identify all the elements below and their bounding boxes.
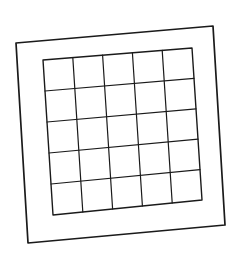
grid-lines: [45, 50, 200, 212]
grid-horizontal-line: [49, 139, 198, 153]
sketch-canvas: [0, 0, 241, 256]
grid-vertical-line: [162, 50, 172, 203]
grid-vertical-line: [73, 58, 83, 212]
grid-horizontal-line: [45, 78, 194, 91]
grid-vertical-line: [103, 55, 113, 209]
grid-vertical-line: [132, 53, 142, 206]
inner-grid-border: [43, 48, 202, 215]
grid-horizontal-line: [47, 109, 196, 122]
grid-horizontal-line: [51, 170, 200, 184]
